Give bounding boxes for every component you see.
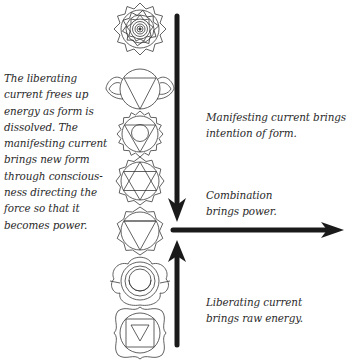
throat-chakra-icon	[117, 111, 163, 157]
liberating-current-caption: Liberating current brings raw energy.	[206, 295, 346, 326]
crown-chakra-icon	[114, 3, 166, 55]
combination-right-arrow	[173, 222, 344, 238]
chakra-currents-diagram: The liberating current frees up energy a…	[0, 0, 357, 364]
manifesting-current-caption: Manifesting current brings intention of …	[206, 110, 356, 141]
root-chakra-icon	[114, 307, 166, 359]
sacral-chakra-icon	[110, 257, 170, 305]
left-explanation-caption: The liberating current frees up energy a…	[4, 70, 120, 233]
liberating-up-arrow	[168, 240, 186, 345]
heart-chakra-icon	[116, 157, 164, 205]
combination-caption: Combination brings power.	[206, 188, 326, 219]
manifesting-down-arrow	[168, 16, 186, 222]
solar-plexus-chakra-icon	[117, 207, 163, 255]
